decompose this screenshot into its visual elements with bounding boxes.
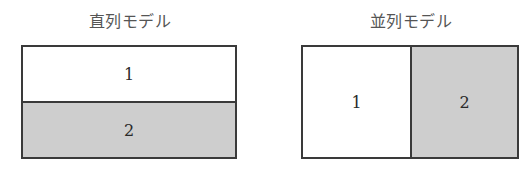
serial-cell-2-label: 2 — [124, 121, 134, 140]
serial-model-title: 直列モデル — [60, 8, 200, 32]
parallel-cell-1: 1 — [303, 47, 412, 157]
serial-cell-1-label: 1 — [124, 65, 134, 84]
serial-cell-2: 2 — [23, 103, 235, 157]
parallel-cell-2-label: 2 — [459, 93, 469, 112]
serial-model-diagram: 1 2 — [21, 45, 237, 159]
parallel-cell-2: 2 — [412, 47, 517, 157]
parallel-cell-1-label: 1 — [351, 93, 361, 112]
serial-cell-1: 1 — [23, 47, 235, 103]
parallel-model-title: 並列モデル — [341, 8, 481, 32]
parallel-model-diagram: 1 2 — [301, 45, 519, 159]
